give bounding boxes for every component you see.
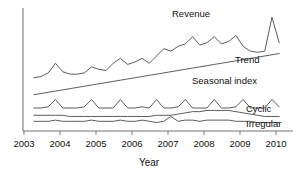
series-line-cyclic — [34, 110, 279, 116]
series-label-cyclic: Cyclic — [246, 103, 272, 114]
x-tick-label-2003: 2003 — [13, 138, 34, 149]
x-axis-title: Year — [139, 157, 160, 168]
chart-canvas: RevenueTrendSeasonal indexCyclicIrregula… — [0, 0, 299, 180]
x-axis-ticks — [24, 131, 276, 135]
series-label-trend: Trend — [235, 54, 259, 65]
x-tick-label-2008: 2008 — [193, 138, 214, 149]
series-lines-group — [34, 17, 279, 122]
series-label-revenue: Revenue — [172, 8, 210, 19]
axes-group — [23, 8, 293, 135]
x-tick-label-2010: 2010 — [265, 138, 286, 149]
series-line-revenue — [34, 17, 279, 78]
series-label-irregular: Irregular — [246, 118, 281, 129]
time-series-decomposition-chart: RevenueTrendSeasonal indexCyclicIrregula… — [0, 0, 299, 180]
x-tick-label-2009: 2009 — [229, 138, 250, 149]
x-tick-label-2005: 2005 — [85, 138, 106, 149]
x-tick-label-2004: 2004 — [49, 138, 70, 149]
series-label-seasonal-index: Seasonal index — [192, 75, 257, 86]
x-tick-label-2007: 2007 — [157, 138, 178, 149]
series-line-irregular — [34, 116, 279, 122]
x-axis-tick-label-group: 20032004200520062007200820092010 — [13, 138, 286, 149]
series-line-seasonal-index — [34, 100, 279, 108]
x-tick-label-2006: 2006 — [121, 138, 142, 149]
